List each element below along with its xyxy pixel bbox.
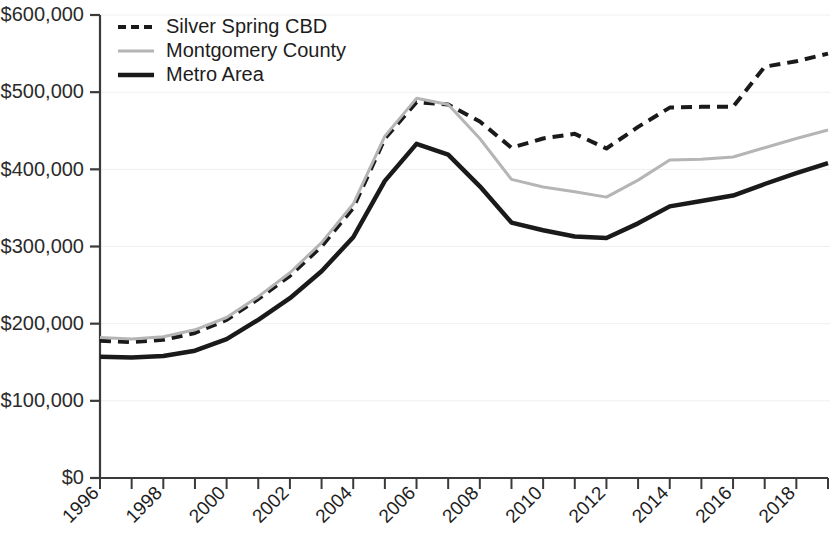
- y-axis-tick-label: $200,000: [1, 312, 84, 334]
- legend-label: Metro Area: [166, 63, 265, 85]
- chart-canvas: $600,000$500,000$400,000$300,000$200,000…: [0, 0, 840, 535]
- y-axis-tick-label: $0: [62, 466, 84, 488]
- y-axis-tick-label: $300,000: [1, 235, 84, 257]
- y-axis-tick-label: $500,000: [1, 80, 84, 102]
- legend-label: Silver Spring CBD: [166, 15, 327, 37]
- legend-label: Montgomery County: [166, 39, 346, 61]
- y-axis-tick-label: $400,000: [1, 158, 84, 180]
- y-axis-tick-label: $100,000: [1, 389, 84, 411]
- plot-background: [0, 0, 840, 535]
- y-axis-tick-label: $600,000: [1, 3, 84, 25]
- line-chart-figure: $600,000$500,000$400,000$300,000$200,000…: [0, 0, 840, 535]
